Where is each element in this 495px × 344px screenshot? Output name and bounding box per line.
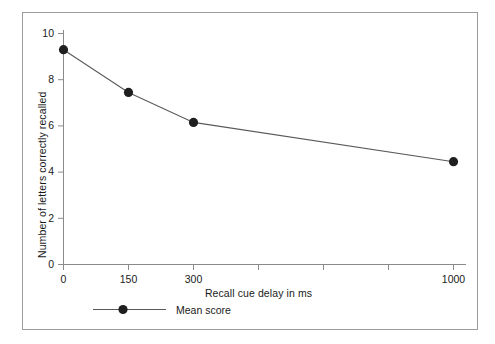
- series-markers-mean-score: [59, 45, 458, 166]
- y-tick-label-8: 8: [22, 73, 54, 85]
- data-point: [59, 45, 68, 54]
- legend-swatch-mean-score: [93, 305, 166, 314]
- y-axis-title: Number of letters correctly recalled: [36, 92, 48, 258]
- data-point: [189, 118, 198, 127]
- x-tick-label-300: 300: [173, 273, 214, 285]
- data-point: [124, 88, 133, 97]
- x-axis-ticks: [64, 265, 454, 271]
- series-line-mean-score: [64, 50, 454, 162]
- y-tick-label-10: 10: [22, 27, 54, 39]
- data-point: [449, 157, 458, 166]
- x-tick-label-150: 150: [108, 273, 149, 285]
- legend-label-mean-score: Mean score: [176, 304, 231, 316]
- figure-container: 10 8 6 4 2 0 0 150 300 1000 Number of le…: [0, 0, 495, 344]
- x-tick-label-0: 0: [43, 273, 84, 285]
- y-axis-ticks: [58, 34, 64, 265]
- y-tick-label-0: 0: [22, 258, 54, 270]
- x-tick-label-1000: 1000: [433, 273, 474, 285]
- x-axis-title: Recall cue delay in ms: [63, 287, 454, 299]
